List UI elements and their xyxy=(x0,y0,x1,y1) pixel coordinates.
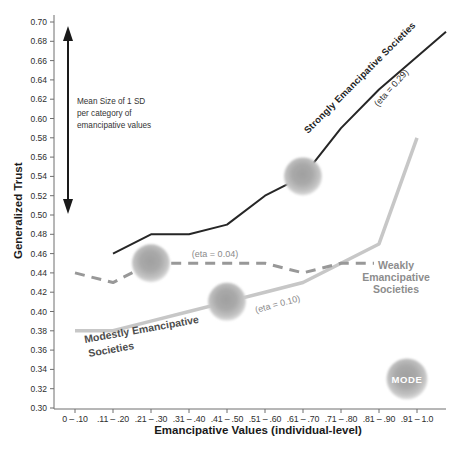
x-tick-label: .31 – .40 xyxy=(173,414,206,424)
trust-vs-emancipative-values-chart: 0.700.680.660.640.620.600.580.560.540.52… xyxy=(0,0,451,454)
modestly-series-label-line1: Modestly Emancipative xyxy=(83,313,200,345)
x-tick-label: .91 – 1.0 xyxy=(401,414,434,424)
weakly-eta-label: (eta = 0.04) xyxy=(192,249,238,259)
sd-arrow-head-up-icon xyxy=(63,26,73,41)
x-tick-label: .21 – .30 xyxy=(135,414,168,424)
y-tick-label: 0.70 xyxy=(30,17,47,27)
sd-note-line3: emancipative values xyxy=(77,121,151,130)
y-tick-label: 0.34 xyxy=(30,364,47,374)
mode-legend-label: MODE xyxy=(392,374,423,385)
sd-arrow: Mean Size of 1 SD per category of emanci… xyxy=(63,26,151,214)
x-tick-label: .81 – .90 xyxy=(363,414,396,424)
sd-note-line2: per category of xyxy=(77,109,132,118)
y-tick-label: 0.36 xyxy=(30,345,47,355)
y-tick-label: 0.38 xyxy=(30,326,47,336)
y-tick-label: 0.48 xyxy=(30,229,47,239)
y-axis-title: Generalized Trust xyxy=(12,162,24,259)
y-tick-label: 0.50 xyxy=(30,210,47,220)
y-tick-label: 0.62 xyxy=(30,94,47,104)
y-tick-label: 0.32 xyxy=(30,384,47,394)
y-tick-label: 0.64 xyxy=(30,75,47,85)
axes: 0.700.680.660.640.620.600.580.560.540.52… xyxy=(30,15,446,424)
y-tick-label: 0.40 xyxy=(30,307,47,317)
mode-sphere-strongly xyxy=(284,157,322,195)
x-tick-label: .51 – .60 xyxy=(249,414,282,424)
series-line-strongly xyxy=(113,32,446,254)
x-tick-label: .61 – .70 xyxy=(287,414,320,424)
x-axis-title: Emancipative Values (individual-level) xyxy=(154,424,362,436)
modestly-eta-label: (eta = 0.10) xyxy=(254,293,301,315)
x-tick-label: .71 – .80 xyxy=(325,414,358,424)
mode-legend: MODE xyxy=(387,359,428,400)
y-tick-label: 0.30 xyxy=(30,403,47,413)
chart-figure: 0.700.680.660.640.620.600.580.560.540.52… xyxy=(0,0,451,454)
weakly-series-label-line3: Societies xyxy=(373,283,419,295)
mode-sphere-weakly xyxy=(132,244,170,282)
x-tick-label: .41 – .50 xyxy=(211,414,244,424)
y-tick-label: 0.60 xyxy=(30,114,47,124)
y-tick-label: 0.44 xyxy=(30,268,47,278)
y-tick-label: 0.54 xyxy=(30,171,47,181)
y-tick-label: 0.58 xyxy=(30,133,47,143)
y-tick-label: 0.56 xyxy=(30,152,47,162)
strongly-eta-label: (eta = 0.29) xyxy=(372,67,410,108)
y-tick-label: 0.66 xyxy=(30,56,47,66)
sd-note-line1: Mean Size of 1 SD xyxy=(77,97,145,106)
y-tick-label: 0.42 xyxy=(30,287,47,297)
mode-sphere-modestly xyxy=(208,283,246,321)
series-line-weakly xyxy=(75,263,374,282)
weakly-series-label-line1: Weakly xyxy=(378,259,414,271)
x-tick-label: .11 – .20 xyxy=(97,414,129,424)
y-tick-label: 0.46 xyxy=(30,249,47,259)
weakly-series-label-line2: Emancipative xyxy=(362,271,430,283)
y-tick-label: 0.68 xyxy=(30,36,47,46)
sd-arrow-head-down-icon xyxy=(63,199,73,214)
y-tick-label: 0.52 xyxy=(30,191,47,201)
x-tick-label: 0 – .10 xyxy=(62,414,88,424)
